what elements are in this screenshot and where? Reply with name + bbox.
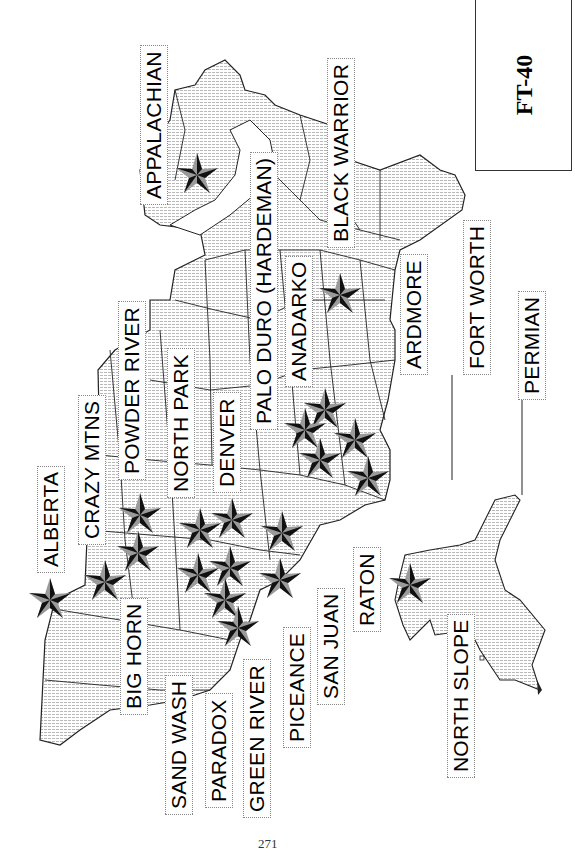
label-permian: PERMIAN [518,291,546,400]
label-powder-river: POWDER RIVER [118,301,146,480]
label-fort-worth: FORT WORTH [463,220,491,375]
label-black-warrior: BLACK WARRIOR [327,58,355,248]
figure-id-box: FT-40 [475,0,572,171]
label-anadarko: ANADARKO [285,256,313,387]
label-north-slope: NORTH SLOPE [447,614,475,778]
label-ardmore: ARDMORE [400,254,428,375]
label-green-river: GREEN RIVER [243,659,271,818]
leader-lines [452,375,522,495]
page-number: 271 [258,836,278,852]
label-crazy-mtns: CRAZY MTNS [78,395,106,545]
figure-id: FT-40 [510,55,537,115]
label-denver: DENVER [213,392,241,493]
small-island [480,656,484,660]
label-appalachian: APPALACHIAN [140,45,168,205]
label-palo-duro-hardeman: PALO DURO (HARDEMAN) [250,152,278,430]
label-raton: RATON [353,547,381,632]
label-big-horn: BIG HORN [120,598,148,715]
label-piceance: PICEANCE [283,627,311,748]
label-sand-wash: SAND WASH [165,675,193,815]
label-alberta: ALBERTA [37,466,65,573]
label-san-juan: SAN JUAN [317,588,345,705]
label-north-park: NORTH PARK [167,348,195,498]
label-paradox: PARADOX [205,693,233,808]
aleutian-island [537,680,542,695]
